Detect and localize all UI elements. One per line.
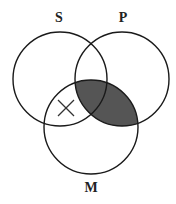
venn-diagram: S P M (0, 0, 176, 204)
label-m: M (84, 180, 97, 195)
circle-s (13, 32, 107, 126)
label-p: P (119, 10, 128, 25)
x-mark-icon (58, 100, 74, 116)
label-s: S (55, 10, 63, 25)
